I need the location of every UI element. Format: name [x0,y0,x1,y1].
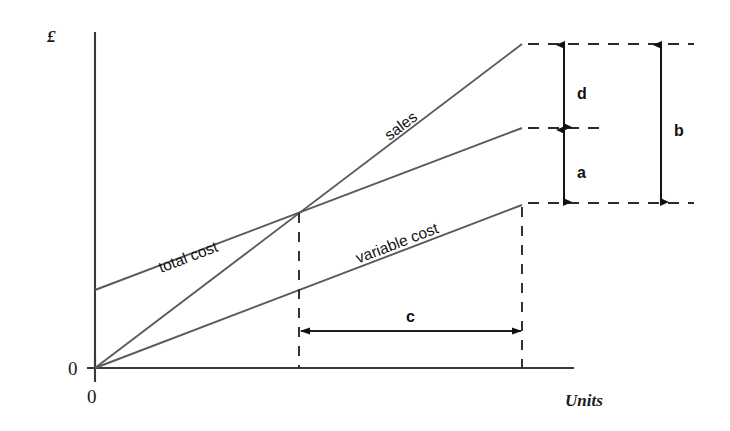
measure-label-c: c [406,308,415,325]
dashed-guides-group [299,44,694,368]
measure-labels-group: d a b c [406,85,684,325]
series-label-variable-cost: variable cost [353,219,441,266]
y-axis-label: £ [46,27,56,46]
series-labels-group: sales total cost variable cost [156,108,441,276]
origin-label-x: 0 [87,386,97,407]
measure-arrows-group [301,45,661,331]
measure-label-b: b [674,122,684,139]
origin-label-y: 0 [68,358,78,379]
chart-canvas: £ Units 0 0 sales total cost variable co… [0,0,730,431]
sales-line [95,44,522,368]
series-lines-group [95,44,522,368]
series-label-sales: sales [381,108,420,144]
measure-label-d: d [577,85,587,102]
axes-group [88,33,573,382]
x-axis-label: Units [565,391,603,410]
series-label-total-cost: total cost [156,238,221,276]
break-even-chart-figure: £ Units 0 0 sales total cost variable co… [0,0,730,431]
variable-cost-line [95,205,522,368]
measure-label-a: a [577,164,586,181]
